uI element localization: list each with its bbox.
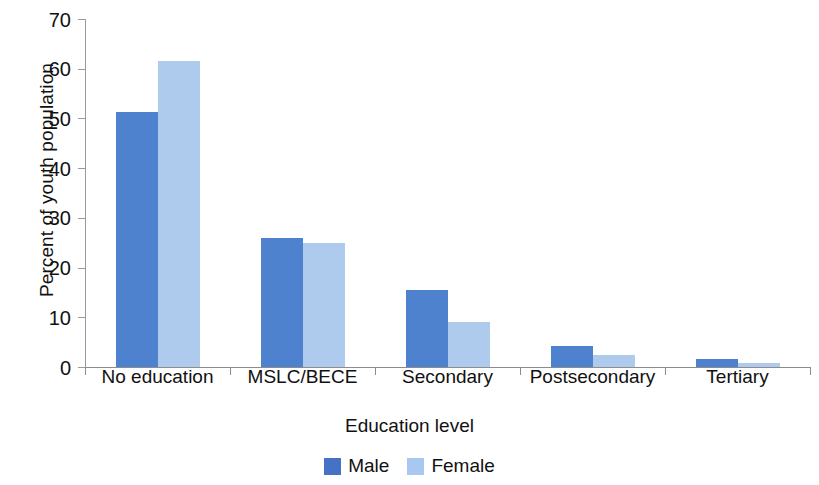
legend-item-female: Female [407, 455, 494, 477]
bar-female-2 [303, 243, 345, 367]
x-axis-tick [810, 367, 811, 375]
bar-female-1 [158, 61, 200, 367]
y-axis-tick-label: 0 [60, 356, 71, 379]
y-axis-tick: 40 [78, 168, 85, 169]
y-axis-tick-label: 60 [49, 58, 71, 81]
y-axis-tick-label: 40 [49, 157, 71, 180]
legend-item-male: Male [324, 455, 389, 477]
y-axis-line [85, 19, 86, 367]
bar-female-3 [448, 322, 490, 367]
y-axis-tick: 70 [78, 19, 85, 20]
y-axis-tick: 0 [78, 367, 85, 368]
y-axis-tick: 60 [78, 69, 85, 70]
bar-male-3 [406, 290, 448, 367]
y-axis-tick-label: 10 [49, 306, 71, 329]
y-axis-tick-label: 20 [49, 257, 71, 280]
female-swatch [407, 458, 424, 475]
bar-male-1 [116, 112, 158, 367]
chart-legend: MaleFemale [0, 455, 819, 477]
y-axis-tick-label: 30 [49, 207, 71, 230]
y-axis-tick: 30 [78, 218, 85, 219]
legend-label: Male [348, 455, 389, 477]
x-axis-category-label: Tertiary [665, 366, 810, 388]
x-axis-category-label: Postsecondary [520, 366, 665, 388]
y-axis-tick-label: 50 [49, 107, 71, 130]
bar-male-2 [261, 238, 303, 367]
x-axis-category-label: MSLC/BECE [230, 366, 375, 388]
male-swatch [324, 458, 341, 475]
x-axis-category-label: Secondary [375, 366, 520, 388]
bar-male-4 [551, 346, 593, 367]
legend-label: Female [431, 455, 494, 477]
y-axis-tick-label: 70 [49, 8, 71, 31]
x-axis-category-label: No education [85, 366, 230, 388]
plot-area: 010203040506070 [85, 19, 810, 367]
bar-chart: Percent of youth population 010203040506… [0, 0, 819, 485]
y-axis-tick: 10 [78, 317, 85, 318]
y-axis-tick: 20 [78, 268, 85, 269]
y-axis-tick: 50 [78, 118, 85, 119]
x-axis-title: Education level [0, 415, 819, 437]
